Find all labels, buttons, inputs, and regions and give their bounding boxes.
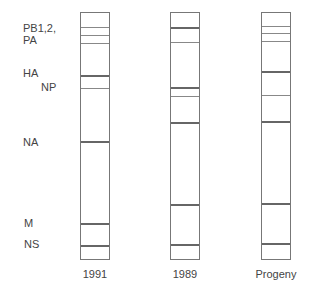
band [262, 33, 290, 34]
segment-label: NP [41, 81, 56, 93]
band [171, 27, 199, 29]
gel-lane [170, 12, 200, 260]
lane-label: 1989 [155, 268, 215, 280]
band [262, 95, 290, 96]
band [81, 245, 109, 247]
segment-label: PA [23, 34, 37, 46]
band [262, 26, 290, 27]
segment-label: M [24, 217, 33, 229]
segment-label: HA [23, 67, 38, 79]
band [81, 27, 109, 28]
band [171, 204, 199, 206]
band [171, 244, 199, 246]
band [81, 75, 109, 77]
lane-label: Progeny [246, 268, 306, 280]
band [81, 223, 109, 225]
segment-label: NA [23, 136, 38, 148]
band [262, 243, 290, 245]
band [81, 88, 109, 89]
band [262, 121, 290, 123]
band [262, 203, 290, 205]
band [81, 141, 109, 143]
lane-label: 1991 [65, 268, 125, 280]
segment-label: PB1,2, [23, 22, 56, 34]
band [81, 35, 109, 36]
band [171, 87, 199, 89]
segment-label: NS [24, 238, 39, 250]
band [171, 42, 199, 43]
band [171, 96, 199, 97]
band [262, 71, 290, 73]
band [262, 41, 290, 42]
band [81, 43, 109, 44]
band [171, 122, 199, 124]
gel-lane [80, 12, 110, 260]
gel-lane [261, 12, 291, 260]
